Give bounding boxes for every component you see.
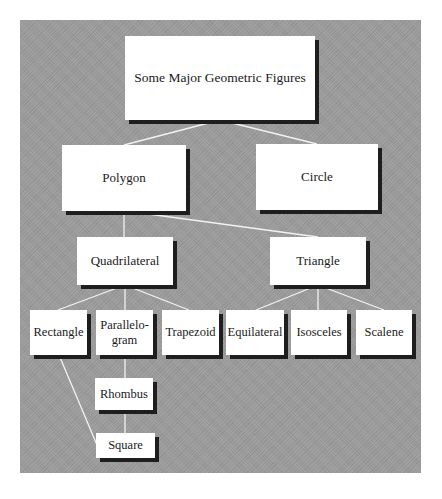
node-square: Square — [96, 433, 155, 458]
node-label: Parallelo- gram — [100, 318, 149, 348]
node-label: Some Major Geometric Figures — [134, 70, 305, 86]
node-label: Square — [108, 438, 143, 453]
node-label: Trapezoid — [165, 325, 215, 340]
node-scalene: Scalene — [356, 310, 412, 355]
node-quadrilateral: Quadrilateral — [77, 237, 173, 285]
node-label: Polygon — [102, 170, 145, 186]
node-label: Quadrilateral — [91, 253, 160, 269]
node-root: Some Major Geometric Figures — [125, 36, 315, 120]
node-isosceles: Isosceles — [291, 310, 347, 355]
node-label: Circle — [301, 169, 333, 185]
node-circle: Circle — [256, 144, 378, 210]
node-label: Scalene — [365, 325, 404, 340]
node-triangle: Triangle — [270, 237, 366, 285]
node-label: Isosceles — [296, 325, 341, 340]
node-label: Rectangle — [34, 325, 84, 340]
node-equilateral: Equilateral — [226, 310, 284, 355]
node-parallelogram: Parallelo- gram — [96, 310, 153, 355]
node-label: Rhombus — [100, 387, 148, 402]
node-polygon: Polygon — [62, 145, 186, 211]
node-rectangle: Rectangle — [30, 310, 87, 355]
node-label: Equilateral — [228, 325, 283, 340]
node-trapezoid: Trapezoid — [162, 310, 219, 355]
node-rhombus: Rhombus — [95, 378, 153, 410]
node-label: Triangle — [296, 253, 340, 269]
